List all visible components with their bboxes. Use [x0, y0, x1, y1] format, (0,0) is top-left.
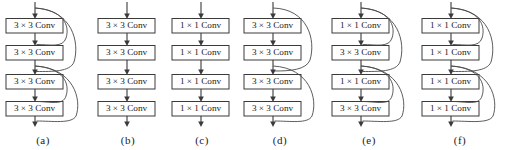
panel-b: 3 × 3 Conv 3 × 3 Conv 3 × 3 Conv 3 × 3 C…: [92, 0, 164, 150]
panel-c-caption: (c): [166, 134, 238, 146]
conv-block-3-label: 1 × 1 Conv: [180, 76, 222, 86]
conv-block-2-label: 1 × 1 Conv: [180, 47, 222, 57]
conv-block-3-label: 3 × 3 Conv: [14, 76, 56, 86]
skip-curve-d1: [273, 8, 312, 71]
panel-a-caption: (a): [0, 134, 86, 146]
conv-block-3-label: 1 × 1 Conv: [430, 76, 472, 86]
conv-block-3-label: 1 × 1 Conv: [340, 76, 382, 86]
network-block-diagram-figure: 3 × 3 Conv 3 × 3 Conv 3 × 3 Conv 3 × 3 C…: [0, 0, 507, 150]
conv-block-1-label: 3 × 3 Conv: [252, 20, 294, 30]
skip-curve-e2: [361, 8, 402, 72]
panel-d-caption: (d): [238, 134, 322, 146]
panel-b-caption: (b): [92, 134, 164, 146]
conv-block-1-label: 1 × 1 Conv: [340, 20, 382, 30]
conv-block-4-label: 1 × 1 Conv: [430, 103, 472, 113]
conv-block-3-label: 3 × 3 Conv: [106, 76, 148, 86]
conv-block-4-label: 3 × 3 Conv: [14, 103, 56, 113]
output-arrow-icon: [32, 122, 38, 128]
panel-f-caption: (f): [416, 134, 504, 146]
panel-f: 1 × 1 Conv 1 × 1 Conv 1 × 1 Conv 1 × 1 C…: [416, 0, 504, 150]
output-arrow-icon: [198, 122, 204, 128]
conv-block-4-label: 1 × 1 Conv: [180, 103, 222, 113]
panel-d: 3 × 3 Conv 3 × 3 Conv 3 × 3 Conv 3 × 3 C…: [238, 0, 322, 150]
conv-block-3-label: 3 × 3 Conv: [252, 76, 294, 86]
panel-d-graphic: 3 × 3 Conv 3 × 3 Conv 3 × 3 Conv 3 × 3 C…: [238, 0, 322, 128]
panel-c: 1 × 1 Conv 1 × 1 Conv 1 × 1 Conv 1 × 1 C…: [166, 0, 238, 150]
panel-e-caption: (e): [326, 134, 412, 146]
conv-block-1-label: 3 × 3 Conv: [14, 20, 56, 30]
panel-a: 3 × 3 Conv 3 × 3 Conv 3 × 3 Conv 3 × 3 C…: [0, 0, 86, 150]
panel-a-graphic: 3 × 3 Conv 3 × 3 Conv 3 × 3 Conv 3 × 3 C…: [0, 0, 86, 128]
conv-block-2-label: 3 × 3 Conv: [340, 47, 382, 57]
conv-block-4-label: 3 × 3 Conv: [340, 103, 382, 113]
conv-block-4-label: 3 × 3 Conv: [106, 103, 148, 113]
panel-b-graphic: 3 × 3 Conv 3 × 3 Conv 3 × 3 Conv 3 × 3 C…: [92, 0, 164, 128]
skip-curve-f2: [451, 8, 493, 72]
conv-block-1-label: 3 × 3 Conv: [106, 20, 148, 30]
panel-e: 1 × 1 Conv 3 × 3 Conv 1 × 1 Conv 3 × 3 C…: [326, 0, 412, 150]
conv-block-1-label: 1 × 1 Conv: [180, 20, 222, 30]
output-arrow-icon: [358, 122, 364, 128]
conv-block-4-label: 3 × 3 Conv: [252, 103, 294, 113]
output-arrow-icon: [124, 122, 130, 128]
conv-block-2-label: 3 × 3 Conv: [252, 47, 294, 57]
conv-block-2-label: 1 × 1 Conv: [430, 47, 472, 57]
output-arrow-icon: [448, 122, 454, 128]
conv-block-2-label: 3 × 3 Conv: [106, 47, 148, 57]
conv-block-2-label: 3 × 3 Conv: [14, 47, 56, 57]
panel-c-graphic: 1 × 1 Conv 1 × 1 Conv 1 × 1 Conv 1 × 1 C…: [166, 0, 238, 128]
panel-f-graphic: 1 × 1 Conv 1 × 1 Conv 1 × 1 Conv 1 × 1 C…: [416, 0, 504, 128]
panel-e-graphic: 1 × 1 Conv 3 × 3 Conv 1 × 1 Conv 3 × 3 C…: [326, 0, 412, 128]
skip-curve-a2: [35, 8, 76, 72]
conv-block-1-label: 1 × 1 Conv: [430, 20, 472, 30]
output-arrow-icon: [270, 122, 276, 128]
